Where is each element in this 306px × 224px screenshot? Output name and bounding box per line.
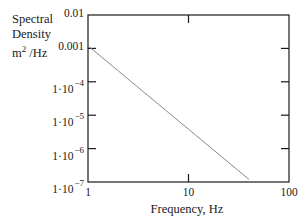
y-tick-label: 0.001 [58,40,84,52]
unit-base: m [12,46,22,60]
y-tick-label: 1·10−7 [52,180,84,195]
y-axis-title-line1: Spectral [12,12,53,27]
x-axis-title: Frequency, Hz [151,202,224,217]
y-tick-label: 1·10−4 [52,80,84,95]
unit-rest: /Hz [26,46,47,60]
y-tick-label: 0.01 [64,7,84,19]
y-axis-title: Spectral Density m2 /Hz [12,12,53,61]
y-tick-label: 1·10−6 [52,147,84,162]
x-tick-label: 100 [280,186,297,198]
x-tick-label: 1 [85,186,91,198]
y-tick-label: 1·10−5 [52,113,84,128]
plot-frame [88,15,289,182]
x-tick-label: 10 [183,186,195,198]
y-axis-title-line3: m2 /Hz [12,42,53,61]
y-axis-title-line2: Density [12,27,53,42]
spectral-density-chart: Spectral Density m2 /Hz 0.010.0011·10−41… [0,0,306,224]
tick-marks [88,15,289,182]
data-series-line [88,46,249,180]
axes-frame [88,15,289,182]
